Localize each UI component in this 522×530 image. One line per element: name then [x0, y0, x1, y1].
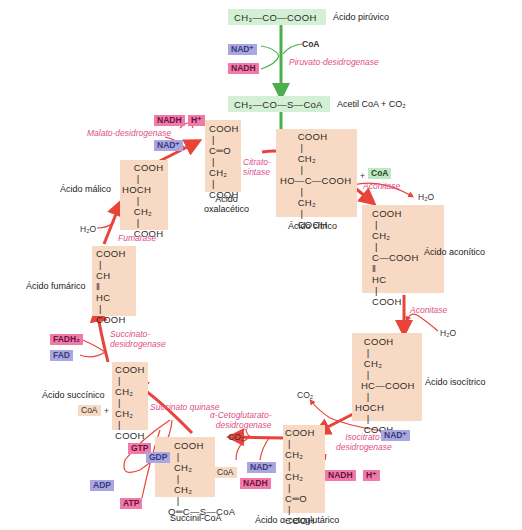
- fumarase-water: H₂O: [80, 224, 96, 234]
- citric-formula: COOH | CH₂ | HO—C—COOH | CH₂ | COOH: [280, 131, 351, 230]
- isocitric-formula: COOH | CH₂ | HC—COOH | HOCH | COOH: [355, 336, 415, 435]
- pyruvate-nadh-tag: NADH: [228, 63, 259, 74]
- ketoglutaric-co2: CO₂: [228, 432, 244, 442]
- malic-name: Ácido málico: [60, 184, 111, 194]
- succinic-name: Ácido succínico: [42, 390, 105, 400]
- succinyl-coa-name: Succinil-CoA: [170, 513, 222, 523]
- enzyme-succinato-desidrogenase: Succinato- desidrogenase: [110, 329, 166, 349]
- malic-nadh-tag: NADH: [154, 115, 185, 126]
- citric-name: Ácido cítrico: [288, 221, 337, 231]
- ketoglutaric-formula: COOH | CH₂ | CH₂ | C═O | COOH: [285, 427, 315, 526]
- enzyme-malato-desidrogenase: Malato-desidrogenase: [87, 128, 171, 138]
- aconitic-name: Ácido aconítico: [424, 247, 485, 257]
- aconitic-formula: COOH | CH₂ | C—COOH ‖ HC | COOH: [372, 208, 419, 307]
- aconitase-water-in: H₂O: [440, 328, 456, 338]
- enzyme-citrato-sintase: Citrato- sintase: [243, 157, 271, 177]
- isocitric-h-tag: H⁺: [363, 470, 380, 481]
- acetyl-coa-name: Acetil CoA + CO₂: [337, 99, 406, 109]
- oxaloacetic-name: Ácido oxalacético: [204, 194, 249, 214]
- enzyme-aconitase-1: Aconitase: [363, 181, 400, 191]
- pyruvate-name: Ácido pirúvico: [333, 12, 389, 22]
- fumaric-name: Ácido fumárico: [26, 281, 86, 291]
- adp-tag: ADP: [90, 480, 114, 491]
- succinic-formula: COOH | CH₂ | CH₂ | COOH: [115, 364, 145, 441]
- malic-h-tag: H⁺: [188, 115, 205, 126]
- citric-plus: +: [360, 171, 365, 181]
- isocitric-nad-tag: NAD⁺: [381, 430, 410, 441]
- succinic-coa-tag: CoA: [78, 405, 101, 416]
- isocitric-co2: CO₂: [297, 390, 313, 400]
- pyruvate-nad-tag: NAD⁺: [228, 44, 257, 55]
- isocitric-name: Ácido isocítrico: [425, 377, 486, 387]
- fumaric-formula: COOH | CH ‖ HC | COOH: [96, 248, 126, 325]
- pyruvate-coa: CoA: [302, 39, 319, 49]
- malic-nad-tag: NAD⁺: [154, 140, 183, 151]
- fad-tag: FAD: [50, 350, 73, 361]
- oxaloacetic-formula: COOH | C═O | CH₂ | COOH: [209, 123, 239, 200]
- succinyl-coa-formula: COOH | CH₂ | CH₂ | O═C—S—CoA: [168, 440, 236, 517]
- ketoglutaric-coa-tag: CoA: [214, 467, 237, 478]
- acetyl-coa-formula: CH₃—CO—S—CoA: [234, 99, 323, 110]
- pyruvate-formula: CH₃—CO—COOH: [234, 12, 317, 23]
- enzyme-piruvato-desidrogenase: Piruvato-desidrogenase: [289, 57, 379, 67]
- aconitase-water-out: H₂O: [418, 192, 434, 202]
- ketoglutaric-name: Ácido α-cetoglutárico: [255, 515, 339, 525]
- krebs-cycle-diagram: CH₃—CO—COOH Ácido pirúvico NAD⁺ NADH CoA…: [0, 0, 522, 530]
- ketoglutaric-nadh-tag: NADH: [240, 478, 271, 489]
- fadh2-tag: FADH₂: [50, 334, 83, 345]
- isocitric-nadh-tag: NADH: [325, 470, 356, 481]
- atp-tag: ATP: [120, 498, 142, 509]
- malic-formula: COOH | HOCH | CH₂ | COOH: [122, 162, 163, 239]
- gdp-tag: GDP: [146, 452, 170, 463]
- enzyme-cetoglutarato-desidrogenase: α-Cetoglutarato- desidrogenase: [210, 410, 272, 430]
- enzyme-aconitase-2: Aconitase: [410, 305, 447, 315]
- citric-coa-tag: CoA: [368, 168, 391, 179]
- enzyme-fumarase: Fumarase: [118, 233, 156, 243]
- ketoglutaric-nad-tag: NAD⁺: [247, 462, 276, 473]
- succinic-plus: +: [104, 406, 109, 416]
